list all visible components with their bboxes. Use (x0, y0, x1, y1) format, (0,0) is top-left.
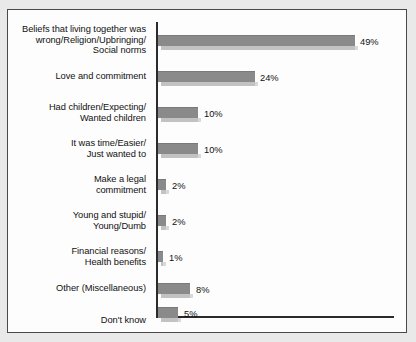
bar-value-label: 1% (169, 253, 182, 264)
category-label: Love and commitment (7, 71, 146, 82)
bar-shadow (161, 294, 193, 298)
bar-value-label: 49% (360, 37, 379, 48)
bar-value-label: 5% (184, 309, 197, 320)
bar-body (158, 143, 198, 154)
category-axis-line (156, 22, 158, 318)
bar-body (158, 35, 355, 46)
bar-cap (255, 82, 258, 86)
bar-body (158, 251, 163, 262)
bar-shadow (161, 154, 201, 158)
bar-body (158, 71, 255, 82)
bar-body (158, 283, 190, 294)
bar-body (158, 215, 166, 226)
bar-cap (198, 118, 201, 122)
bar-value-label: 2% (172, 217, 185, 228)
bar-chart-plot-area: Beliefs that living together was wrong/R… (8, 10, 406, 332)
bar-shadow (161, 118, 201, 122)
bar-value-label: 10% (204, 145, 223, 156)
bar-cap (190, 294, 193, 298)
bar-cap (166, 226, 169, 230)
bar-body (158, 179, 166, 190)
category-label: Make a legal commitment (7, 174, 146, 195)
category-label: Beliefs that living together was wrong/R… (7, 24, 146, 56)
category-label: Had children/Expecting/ Wanted children (7, 102, 146, 123)
bar-body (158, 107, 198, 118)
bar-cap (166, 190, 169, 194)
bar-cap (163, 262, 166, 266)
category-label: Young and stupid/ Young/Dumb (7, 210, 146, 231)
bar-body (158, 307, 178, 318)
bar-cap (355, 46, 358, 50)
bar-value-label: 8% (196, 285, 209, 296)
bar-shadow (161, 46, 358, 50)
category-label: It was time/Easier/ Just wanted to (7, 138, 146, 159)
bar-value-label: 24% (260, 73, 279, 84)
bar-cap (178, 318, 181, 322)
chart-page: Beliefs that living together was wrong/R… (0, 0, 416, 342)
bar-shadow (161, 82, 258, 86)
category-label: Other (Miscellaneous) (7, 283, 146, 294)
category-label: Don't know (7, 315, 146, 326)
chart-frame: Beliefs that living together was wrong/R… (7, 9, 407, 333)
bar-value-label: 2% (172, 181, 185, 192)
bar-value-label: 10% (204, 109, 223, 120)
bar-cap (198, 154, 201, 158)
category-label: Financial reasons/ Health benefits (7, 246, 146, 267)
